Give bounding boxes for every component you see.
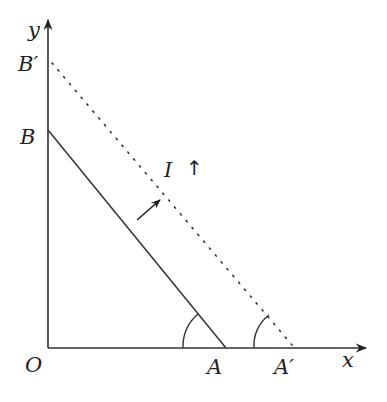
point-a-prime-label: A′ [274, 357, 294, 378]
up-arrow-icon: ↑ [186, 158, 203, 178]
angle-arc-a [183, 314, 198, 348]
segment-a-prime-b-prime [52, 63, 292, 345]
origin-label: O [25, 355, 42, 376]
point-b-prime-label: B′ [18, 54, 38, 75]
point-a-label: A [207, 357, 222, 378]
point-b-label: B [20, 127, 35, 148]
shift-arrow-icon [137, 200, 160, 220]
diagram-svg [0, 0, 387, 402]
y-axis-label: y [28, 20, 40, 41]
diagram-canvas: y B′ B I ↑ O A A′ x [0, 0, 387, 402]
angle-arc-a-prime [254, 315, 269, 348]
x-axis-label: x [342, 350, 354, 371]
current-label: I [164, 160, 172, 181]
